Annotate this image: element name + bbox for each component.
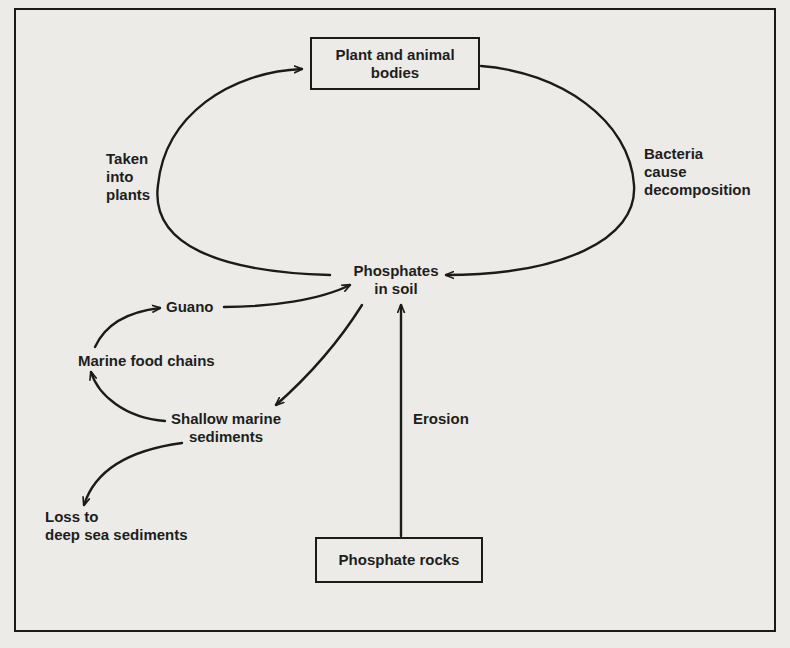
arrow-soil-to-sediments (276, 305, 362, 405)
arrow-sediments-to-foodchains (91, 372, 165, 421)
arrow-foodchains-to-guano (95, 308, 160, 347)
node-marine-food-chains: Marine food chains (78, 352, 215, 370)
arrow-bacteria-decomposition (446, 66, 634, 275)
arrow-taken-into-plants (157, 69, 330, 275)
node-guano: Guano (166, 298, 214, 316)
edge-label-erosion: Erosion (413, 410, 469, 428)
edge-label-taken-into-plants: Taken into plants (106, 150, 150, 204)
node-phosphate-rocks: Phosphate rocks (315, 537, 483, 583)
node-loss-deep-sea-sediments: Loss to deep sea sediments (45, 508, 188, 544)
arrow-sediments-to-deepsea (84, 443, 182, 505)
node-plant-animal-bodies: Plant and animal bodies (310, 37, 480, 90)
phosphorus-cycle-diagram: Plant and animal bodies Phosphates in so… (0, 0, 790, 648)
edge-label-bacteria-decomposition: Bacteria cause decomposition (644, 145, 751, 199)
arrow-guano-to-soil (224, 285, 350, 307)
node-label: Phosphate rocks (339, 551, 460, 569)
node-shallow-marine-sediments: Shallow marine sediments (160, 410, 292, 446)
node-label: Plant and animal bodies (335, 46, 454, 82)
node-phosphates-in-soil: Phosphates in soil (348, 262, 444, 298)
